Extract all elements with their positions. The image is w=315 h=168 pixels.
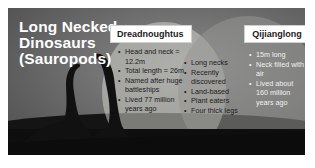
list-item: Neck filled with air	[249, 60, 305, 79]
list-item: Plant eaters	[184, 96, 248, 106]
label-qijianglong: Qijianglong	[244, 25, 305, 43]
title-line-2: Dinosaurs	[19, 35, 117, 51]
list-item: Recently discovered	[184, 68, 248, 87]
list-item: Lived 77 million years ago	[118, 95, 184, 114]
list-item: Total length = 26m	[118, 66, 184, 76]
title-line-3: (Sauropods)	[19, 51, 117, 67]
list-item: Four thick legs	[184, 106, 248, 116]
list-item: Named after huge battleships	[118, 76, 184, 95]
list-item: Long necks	[184, 58, 248, 68]
list-item: Head and neck = 12.2m	[118, 47, 184, 66]
slide-title: Long Necked Dinosaurs (Sauropods)	[19, 19, 117, 67]
list-item: 15m long	[249, 50, 305, 60]
qijianglong-facts-list: 15m long Neck filled with air Lived abou…	[249, 50, 305, 107]
dreadnoughtus-facts-list: Head and neck = 12.2m Total length = 26m…	[118, 47, 184, 114]
slide: Long Necked Dinosaurs (Sauropods) Dreadn…	[8, 8, 305, 155]
title-line-1: Long Necked	[19, 19, 117, 35]
shared-facts-list: Long necks Recently discovered Land-base…	[184, 58, 248, 115]
list-item: Lived about 160 million years ago	[249, 79, 305, 108]
label-dreadnoughtus: Dreadnoughtus	[110, 25, 192, 43]
list-item: Land-based	[184, 87, 248, 97]
